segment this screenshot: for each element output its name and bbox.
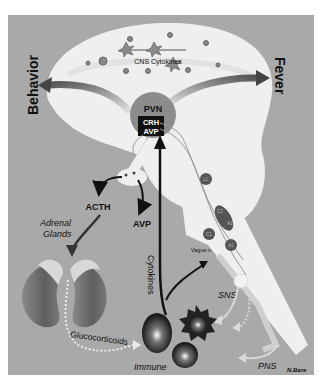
immune-cell-spiky	[179, 305, 217, 341]
glucocorticoids-arrowhead	[133, 340, 141, 350]
a2-label: A2	[227, 221, 233, 226]
adrenal-gland-right	[70, 259, 107, 327]
lc-label: LC	[203, 177, 210, 182]
sns-arrowhead-2	[232, 322, 240, 332]
sns-label: SNS	[218, 290, 237, 300]
avp-label: AVP	[133, 219, 151, 229]
vagus-arrow	[166, 265, 203, 300]
crh-label: CRH	[143, 118, 159, 127]
diagram-figure: CNS Cytokines Behavior Fever PVN CRH AVP…	[8, 15, 314, 375]
behavior-label: Behavior	[25, 55, 41, 115]
adrenal-label-line1: Adrenal	[39, 218, 72, 228]
acth-to-adrenal-arrowhead	[66, 245, 78, 257]
c2-label: C2	[217, 209, 223, 214]
c1-label: C1	[206, 232, 212, 237]
acth-label: ACTH	[86, 202, 111, 212]
immune-label-line1: Immune	[134, 362, 167, 372]
avp-box-label: AVP	[144, 127, 159, 136]
sns-ganglion	[234, 274, 248, 288]
acth-to-adrenal-arrow	[72, 215, 100, 250]
artist-signature: N.Bare	[287, 367, 307, 373]
pvn-label: PVN	[144, 104, 163, 114]
immune-cell-round	[172, 342, 198, 368]
a1-label: A1	[228, 243, 234, 248]
immune-label-line2: System	[134, 373, 165, 375]
adrenal-label-line2: Glands	[43, 229, 72, 239]
pns-arrowhead	[238, 353, 246, 363]
immune-cell-oval	[142, 313, 172, 353]
adrenal-gland-left	[22, 260, 63, 328]
vagus-label: Vagus n.	[191, 247, 213, 253]
fever-label: Fever	[272, 57, 288, 95]
diagram-canvas: CNS Cytokines Behavior Fever PVN CRH AVP…	[8, 15, 314, 375]
cytokines-label: Cytokines	[146, 255, 156, 295]
pns-label: PNS	[258, 361, 277, 371]
cns-cytokines-label: CNS Cytokines	[134, 58, 182, 66]
